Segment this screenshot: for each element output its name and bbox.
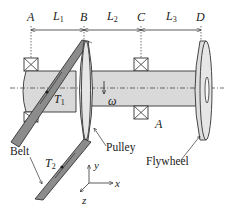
belt-lower [35, 139, 91, 200]
label-axis-z: z [82, 195, 86, 206]
l2-base: L [107, 9, 114, 23]
label-point-c: C [137, 11, 145, 23]
label-axis-x: x [115, 178, 120, 189]
l1-sub: 1 [60, 15, 64, 24]
label-length-l2: L2 [107, 10, 118, 24]
flywheel-disc [195, 41, 212, 140]
l2-sub: 2 [114, 15, 118, 24]
t1-sub: 1 [61, 98, 65, 107]
l3-base: L [166, 9, 173, 23]
label-axis-y: y [94, 160, 99, 171]
label-tension-t1: T1 [54, 93, 65, 107]
label-length-l1: L1 [53, 10, 64, 24]
bearing-c-bottom [134, 106, 148, 119]
l1-base: L [53, 9, 60, 23]
label-tension-t2: T2 [45, 157, 56, 171]
label-section-a: A [155, 118, 162, 130]
l3-sub: 3 [173, 15, 177, 24]
t2-sub: 2 [52, 162, 56, 171]
bearing-a-top [24, 58, 38, 71]
label-length-l3: L3 [166, 10, 177, 24]
label-point-b: B [80, 11, 87, 23]
bearing-c-top [134, 58, 148, 71]
diagram-canvas: A B C D L1 L2 L3 T1 T2 ω A Pulley Flywhe… [0, 0, 234, 212]
t2-base: T [45, 156, 52, 170]
label-belt: Belt [10, 146, 29, 158]
label-pulley: Pulley [106, 142, 135, 154]
label-flywheel: Flywheel [146, 156, 189, 168]
label-point-d: D [196, 11, 205, 23]
shaft-right [89, 71, 196, 106]
extension-lines [31, 26, 201, 58]
pulley-disc [80, 41, 93, 140]
t1-base: T [54, 92, 61, 106]
label-point-a: A [27, 11, 34, 23]
label-omega: ω [108, 95, 116, 107]
